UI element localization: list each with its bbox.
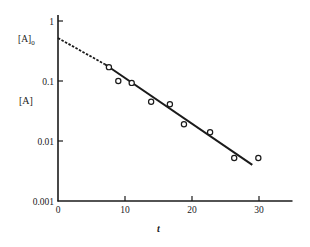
data-point-marker xyxy=(129,80,134,85)
log-concentration-vs-time-chart: 10.10.010.0010102030 [A] t [A]0 xyxy=(0,0,310,247)
y-tick-label: 1 xyxy=(49,17,54,27)
intercept-label: [A]0 xyxy=(18,34,35,47)
y-tick-label: 0.01 xyxy=(37,137,54,147)
y-tick-label: 0.1 xyxy=(42,77,54,87)
x-tick-label: 30 xyxy=(254,205,264,215)
fit-line xyxy=(105,64,252,165)
plot-area: 10.10.010.0010102030 xyxy=(33,15,293,215)
x-tick-label: 10 xyxy=(120,205,130,215)
data-point-marker xyxy=(106,65,111,70)
data-point-marker xyxy=(207,130,212,135)
data-point-marker xyxy=(232,155,237,160)
data-point-marker xyxy=(116,78,121,83)
data-point-marker xyxy=(167,102,172,107)
y-tick-label: 0.001 xyxy=(33,197,55,207)
x-tick-label: 0 xyxy=(56,205,61,215)
data-point-marker xyxy=(256,155,261,160)
data-point-marker xyxy=(149,99,154,104)
intercept-label-main: [A] xyxy=(18,34,31,44)
intercept-label-subscript: 0 xyxy=(31,39,35,47)
extrapolated-fit-line xyxy=(58,38,105,64)
y-axis-label: [A] xyxy=(19,95,33,106)
x-tick-label: 20 xyxy=(187,205,197,215)
x-axis-label: t xyxy=(157,223,161,234)
data-point-marker xyxy=(181,122,186,127)
